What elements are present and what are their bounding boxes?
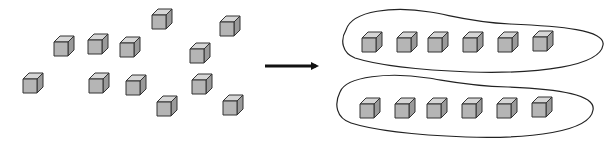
cube-icon — [190, 43, 210, 63]
cube-icon — [223, 95, 243, 115]
cube-icon — [157, 96, 177, 116]
cube-icon — [533, 31, 553, 51]
cube-icon — [498, 32, 518, 52]
group-1-cubes — [362, 31, 553, 52]
cube-icon — [23, 73, 43, 93]
cube-icon — [427, 98, 447, 118]
group-2-cubes — [360, 97, 552, 118]
cube-icon — [89, 73, 109, 93]
cube-icon — [397, 32, 417, 52]
cube-icon — [362, 32, 382, 52]
cube-icon — [126, 75, 146, 95]
cube-icon — [497, 98, 517, 118]
diagram-canvas — [0, 0, 614, 143]
cube-icon — [360, 98, 380, 118]
cube-icon — [192, 74, 212, 94]
diagram-svg — [0, 0, 614, 143]
cube-icon — [152, 9, 172, 29]
cube-icon — [120, 37, 140, 57]
cube-icon — [428, 32, 448, 52]
cube-icon — [462, 98, 482, 118]
ungrouped-cube-cluster — [23, 9, 243, 116]
cube-icon — [395, 98, 415, 118]
cube-icon — [532, 97, 552, 117]
cube-icon — [88, 34, 108, 54]
cube-icon — [54, 36, 74, 56]
cube-icon — [220, 16, 240, 36]
cube-icon — [463, 32, 483, 52]
